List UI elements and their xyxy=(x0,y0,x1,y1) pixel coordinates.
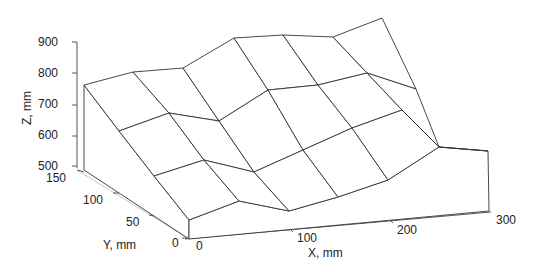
y-tick-label: 0 xyxy=(172,236,179,250)
z-tick-label: 700 xyxy=(38,97,58,111)
z-axis-label: Z, mm xyxy=(20,91,34,125)
x-tick-label: 0 xyxy=(196,239,203,253)
z-tick-label: 800 xyxy=(38,66,58,80)
y-tick-label: 150 xyxy=(46,171,66,185)
z-tick-label: 900 xyxy=(38,35,58,49)
y-tick-label: 50 xyxy=(126,215,140,229)
x-tick-label: 100 xyxy=(297,231,317,245)
x-tick-label: 200 xyxy=(397,223,417,237)
y-tick-label: 100 xyxy=(83,193,103,207)
surface-chart: 900 800 700 600 500 Z, mm 150 100 50 0 Y… xyxy=(0,0,533,272)
x-tick-label: 300 xyxy=(496,213,516,227)
z-tick-label: 600 xyxy=(38,128,58,142)
x-axis-label: X, mm xyxy=(308,246,343,260)
y-axis-label: Y, mm xyxy=(103,238,136,252)
